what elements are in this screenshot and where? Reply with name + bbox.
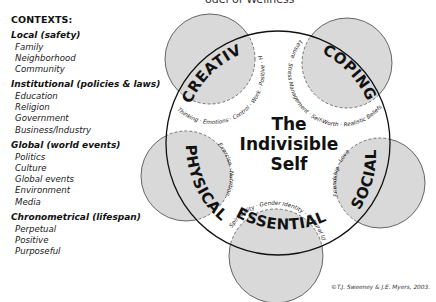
center-title-line2: Indivisible — [240, 134, 339, 154]
center-title-line3: Self — [271, 154, 309, 174]
center-title-line1: The — [271, 114, 306, 134]
copyright-notice: ©T.J. Sweeney & J.E. Myers, 2003. — [331, 284, 430, 290]
indivisible-self-diagram: CREATIVE COPING SOCIAL ESSENTIAL PHYSICA… — [0, 0, 436, 302]
